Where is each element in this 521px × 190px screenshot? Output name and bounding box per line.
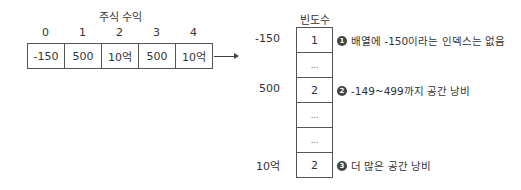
array-cell: 10억	[175, 43, 213, 69]
number-badge-icon: 1	[337, 36, 347, 46]
frequency-title: 빈도수	[296, 11, 333, 27]
array-index: 1	[64, 26, 101, 39]
array-cell: 500	[64, 43, 102, 69]
frequency-cell-ellipsis: ...	[296, 102, 333, 128]
arrow-right-icon	[214, 56, 236, 57]
frequency-cell-ellipsis: ...	[296, 52, 333, 78]
row-label: -150	[240, 32, 280, 45]
row-label: 10억	[240, 157, 280, 173]
frequency-cell: 2	[296, 152, 333, 178]
note-text: 더 많은 공간 낭비	[351, 158, 431, 173]
array-index: 4	[175, 26, 212, 39]
note-1: 1 배열에 -150이라는 인덱스는 없음	[337, 33, 505, 48]
note-3: 3 더 많은 공간 낭비	[337, 158, 431, 173]
note-text: 배열에 -150이라는 인덱스는 없음	[351, 33, 505, 48]
note-2: 2 -149~499까지 공간 낭비	[337, 83, 470, 98]
array-cell: 500	[138, 43, 176, 69]
frequency-cell: 2	[296, 77, 333, 103]
array-title: 주식 수익	[27, 8, 214, 24]
row-label: 500	[240, 82, 280, 95]
array-cell: -150	[27, 43, 65, 69]
array-cell: 10억	[101, 43, 139, 69]
array-index: 2	[101, 26, 138, 39]
array-index: 0	[27, 26, 64, 39]
array-index: 3	[138, 26, 175, 39]
frequency-array: 1 ... 2 ... ... 2	[296, 27, 333, 178]
number-badge-icon: 2	[337, 86, 347, 96]
note-text: -149~499까지 공간 낭비	[351, 83, 470, 98]
stock-returns-array: -150 500 10억 500 10억	[27, 43, 213, 69]
arrow-head-icon	[234, 53, 239, 59]
array-indices: 0 1 2 3 4	[27, 26, 212, 39]
frequency-cell-ellipsis: ...	[296, 127, 333, 153]
frequency-cell: 1	[296, 27, 333, 53]
number-badge-icon: 3	[337, 161, 347, 171]
